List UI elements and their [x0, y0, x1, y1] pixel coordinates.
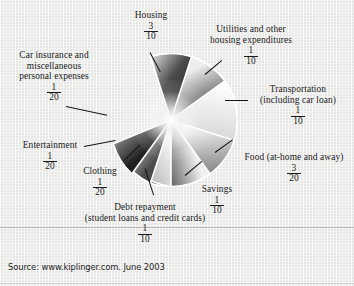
fraction-numerator: 1	[138, 224, 152, 233]
source-note: Source: www.kiplinger.com. June 2003	[8, 262, 165, 272]
label-utilities-text-1: Utilities and other	[191, 24, 311, 35]
label-transportation: Transportation (including car loan) 1 10	[244, 84, 352, 126]
label-clothing-fraction: 1 20	[93, 178, 107, 198]
fraction-numerator: 1	[47, 83, 61, 92]
fraction-denominator: 20	[93, 187, 107, 197]
label-entertainment: Entertainment 1 20	[12, 140, 88, 172]
label-transportation-fraction: 1 10	[291, 106, 305, 126]
label-food-fraction: 3 20	[287, 164, 301, 184]
label-car-insurance-text-2: miscellaneous	[6, 61, 102, 72]
label-transportation-text-1: Transportation	[244, 84, 352, 95]
label-car-insurance: Car insurance and miscellaneous personal…	[6, 50, 102, 103]
fraction-denominator: 20	[43, 161, 57, 171]
fraction-numerator: 3	[287, 164, 301, 173]
fraction-numerator: 1	[291, 106, 305, 115]
center-glow	[131, 80, 211, 160]
label-car-insurance-fraction: 1 20	[47, 83, 61, 103]
label-housing-fraction: 3 10	[144, 22, 158, 42]
label-entertainment-fraction: 1 20	[43, 152, 57, 172]
fraction-numerator: 1	[244, 46, 258, 55]
fraction-denominator: 10	[244, 56, 258, 66]
fraction-numerator: 1	[43, 152, 57, 161]
label-transportation-text-2: (including car loan)	[244, 95, 352, 106]
chart-page: Housing 3 10 Utilities and other housing…	[0, 0, 354, 286]
fraction-denominator: 20	[47, 92, 61, 102]
fraction-denominator: 10	[144, 31, 158, 41]
label-food-text: Food (at-home and away)	[236, 152, 352, 163]
leader-car-insurance	[66, 106, 107, 116]
bottom-rule	[0, 283, 354, 284]
label-debt-text-1: Debt repayment	[76, 202, 214, 213]
fraction-denominator: 10	[138, 234, 152, 244]
label-housing-text: Housing	[111, 10, 191, 21]
label-debt-repayment: Debt repayment (student loans and credit…	[76, 202, 214, 244]
label-utilities: Utilities and other housing expenditures…	[191, 24, 311, 66]
fraction-numerator: 1	[93, 178, 107, 187]
fraction-denominator: 10	[291, 116, 305, 126]
label-car-insurance-text-3: personal expenses	[6, 71, 102, 82]
label-utilities-fraction: 1 10	[244, 46, 258, 66]
label-food: Food (at-home and away) 3 20	[236, 152, 352, 184]
label-savings-text: Savings	[186, 184, 248, 195]
fraction-denominator: 20	[287, 173, 301, 183]
fraction-numerator: 3	[144, 22, 158, 31]
label-housing: Housing 3 10	[111, 10, 191, 42]
label-utilities-text-2: housing expenditures	[191, 35, 311, 46]
label-entertainment-text: Entertainment	[12, 140, 88, 151]
label-debt-text-2: (student loans and credit cards)	[76, 213, 214, 224]
label-car-insurance-text-1: Car insurance and	[6, 50, 102, 61]
label-debt-fraction: 1 10	[138, 224, 152, 244]
